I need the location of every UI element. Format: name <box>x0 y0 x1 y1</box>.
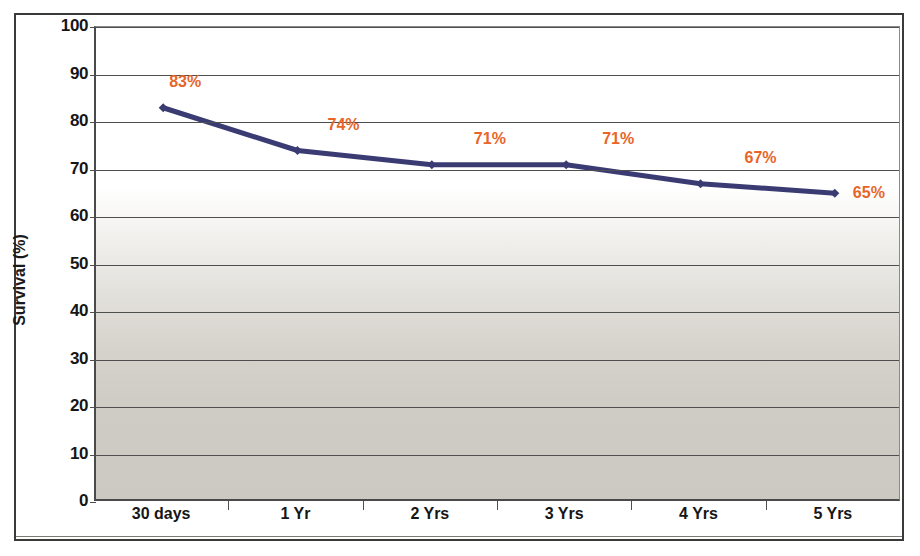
y-tick-label: 90 <box>30 64 88 84</box>
x-tick-label: 1 Yr <box>281 505 311 523</box>
y-tick-mark <box>90 455 96 456</box>
gridline <box>96 455 899 456</box>
gridline <box>96 170 899 171</box>
gridline <box>96 217 899 218</box>
data-point-label: 74% <box>328 116 360 134</box>
x-axis-tick-labels: 30 days1 Yr2 Yrs3 Yrs4 Yrs5 Yrs <box>94 505 900 535</box>
y-tick-label: 50 <box>30 254 88 274</box>
y-axis-title-text: Survival (%) <box>11 234 29 326</box>
plot-area: 83%74%71%71%67%65% <box>94 26 900 501</box>
y-tick-mark <box>90 122 96 123</box>
y-tick-mark <box>90 217 96 218</box>
y-tick-mark <box>90 27 96 28</box>
x-tick-label: 5 Yrs <box>813 505 852 523</box>
y-axis-tick-labels: 1009080706050403020100 <box>30 26 88 501</box>
y-tick-label: 10 <box>30 444 88 464</box>
y-tick-label: 0 <box>30 491 88 511</box>
y-tick-label: 20 <box>30 396 88 416</box>
data-point-marker <box>562 160 571 169</box>
gridline <box>96 27 899 28</box>
data-point-label: 83% <box>169 73 201 91</box>
data-point-label: 67% <box>745 149 777 167</box>
y-tick-label: 60 <box>30 206 88 226</box>
y-tick-label: 40 <box>30 301 88 321</box>
gridline <box>96 407 899 408</box>
data-point-label: 71% <box>474 130 506 148</box>
data-point-marker <box>427 160 436 169</box>
y-tick-mark <box>90 360 96 361</box>
data-point-label: 65% <box>853 184 885 202</box>
chart-page: Survival (%) 1009080706050403020100 83%7… <box>0 0 920 556</box>
y-tick-mark <box>90 75 96 76</box>
data-point-marker <box>696 179 705 188</box>
x-tick-label: 2 Yrs <box>410 505 449 523</box>
y-tick-mark <box>90 312 96 313</box>
x-tick-label: 4 Yrs <box>679 505 718 523</box>
gridline <box>96 360 899 361</box>
y-tick-label: 100 <box>30 16 88 36</box>
data-point-marker <box>830 189 839 198</box>
gridline <box>96 75 899 76</box>
y-tick-mark <box>90 407 96 408</box>
y-tick-label: 30 <box>30 349 88 369</box>
y-tick-label: 80 <box>30 111 88 131</box>
y-tick-mark <box>90 170 96 171</box>
y-axis-title: Survival (%) <box>8 200 32 360</box>
y-tick-mark <box>90 265 96 266</box>
gridline <box>96 122 899 123</box>
series-line <box>163 108 835 194</box>
x-label-separator <box>16 536 902 537</box>
data-point-label: 71% <box>602 130 634 148</box>
gridline <box>96 265 899 266</box>
y-tick-label: 70 <box>30 159 88 179</box>
x-tick-label: 3 Yrs <box>545 505 584 523</box>
gridline <box>96 312 899 313</box>
x-tick-label: 30 days <box>132 505 191 523</box>
